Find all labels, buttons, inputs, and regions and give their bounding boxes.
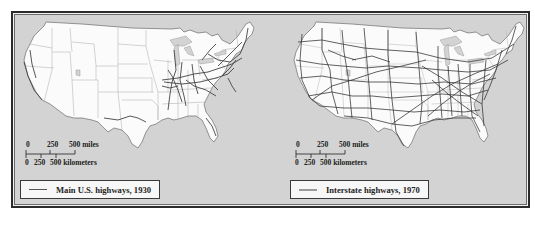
legend-label: Main U.S. highways, 1930 [56,185,159,195]
scale-miles-500: 500 miles [339,140,369,149]
map-1970 [294,22,524,148]
legend-1930: Main U.S. highways, 1930 [20,180,160,199]
scale-miles-0: 0 [296,140,300,149]
scale-miles-250: 250 [317,140,328,149]
scale-miles-250: 250 [47,140,58,149]
scale-km-0: 0 [295,158,299,167]
scale-bar-1930: 0 250 500 miles 0 250 500 kilometers [23,140,113,170]
legend-label: Interstate highways, 1970 [326,185,428,195]
scale-km-250: 250 [34,158,45,167]
legend-1970: Interstate highways, 1970 [290,180,429,199]
scale-km-500: 500 kilometers [50,158,97,167]
scale-km-0: 0 [25,158,29,167]
legend-line-swatch-icon [299,189,317,191]
scale-bar-1970: 0 250 500 miles 0 250 500 kilometers [293,140,383,170]
scale-km-500: 500 kilometers [320,158,367,167]
scale-miles-500: 500 miles [69,140,99,149]
scale-miles-0: 0 [26,140,30,149]
map-1930 [24,22,254,148]
legend-line-swatch-icon [29,189,47,190]
scale-km-250: 250 [304,158,315,167]
